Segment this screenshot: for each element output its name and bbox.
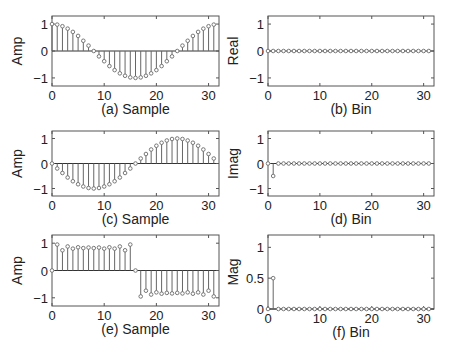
stem-marker: [165, 291, 169, 295]
stem-marker: [82, 39, 86, 43]
stem-marker: [391, 49, 395, 53]
stem-marker: [149, 293, 153, 297]
stem-marker: [212, 295, 216, 299]
stem-marker: [303, 162, 307, 166]
stem-marker: [92, 49, 96, 53]
stem-marker: [113, 68, 117, 72]
stem-marker: [354, 162, 358, 166]
stem-marker: [308, 49, 312, 53]
stem-marker: [155, 68, 159, 72]
x-tick-label: 30: [201, 198, 215, 213]
stem-marker: [87, 246, 91, 250]
stem-marker: [50, 22, 54, 26]
stem-marker: [266, 162, 270, 166]
y-axis-label: Real: [225, 37, 241, 66]
stem-marker: [287, 49, 291, 53]
stem-marker: [82, 246, 86, 250]
stem-marker: [277, 162, 281, 166]
y-tick-label: −1: [33, 182, 48, 197]
stem-marker: [328, 307, 332, 311]
stem-marker: [113, 247, 117, 251]
stem-marker: [134, 269, 138, 273]
y-tick-label: 1: [41, 236, 48, 251]
panel-a: 0102030−101Amp(a) Sample: [9, 16, 219, 117]
y-tick-label: −1: [33, 291, 48, 306]
stem-marker: [66, 176, 70, 180]
stem-marker: [391, 162, 395, 166]
stem-marker: [170, 55, 174, 59]
stem-marker: [292, 307, 296, 311]
x-tick-label: 0: [48, 88, 55, 103]
y-tick-label: 0: [41, 264, 48, 279]
panel-d: 0102030−101Imag(d) Bin: [225, 131, 434, 227]
stem-marker: [181, 292, 185, 296]
stem-marker: [128, 76, 132, 80]
stem-marker: [422, 49, 426, 53]
stem-marker: [55, 23, 59, 27]
stem-marker: [66, 245, 70, 249]
stem-marker: [370, 49, 374, 53]
stem-marker: [365, 49, 369, 53]
y-axis-label: Mag: [225, 258, 241, 285]
stem-marker: [360, 162, 364, 166]
stem-marker: [323, 162, 327, 166]
y-tick-label: −1: [249, 182, 264, 197]
y-tick-label: 0: [257, 44, 264, 59]
stem-marker: [102, 247, 106, 251]
y-tick-label: −1: [33, 71, 48, 86]
stem-marker: [401, 162, 405, 166]
stem-marker: [175, 137, 179, 141]
stem-marker: [139, 295, 143, 299]
stem-marker: [128, 167, 132, 171]
stem-marker: [139, 157, 143, 161]
stem-marker: [427, 49, 431, 53]
x-tick-label: 30: [201, 88, 215, 103]
stem-marker: [202, 27, 206, 31]
stem-marker: [287, 162, 291, 166]
stem-marker: [396, 49, 400, 53]
stem-marker: [113, 179, 117, 183]
stem-marker: [282, 162, 286, 166]
stem-marker: [144, 289, 148, 293]
stem-marker: [396, 307, 400, 311]
stem-marker: [349, 49, 353, 53]
stem-marker: [92, 187, 96, 191]
stem-marker: [128, 243, 132, 247]
stem-marker: [196, 144, 200, 148]
stem-marker: [71, 30, 75, 34]
stem-marker: [271, 49, 275, 53]
stem-marker: [186, 39, 190, 43]
stem-marker: [313, 162, 317, 166]
stem-marker: [82, 185, 86, 189]
stem-marker: [155, 291, 159, 295]
stem-marker: [328, 162, 332, 166]
y-tick-label: 0.5: [246, 271, 264, 286]
stem-marker: [134, 162, 138, 166]
y-axis-label: Amp: [9, 36, 25, 65]
panel-f: 010203000.51Mag(f) Bin: [225, 235, 434, 340]
stem-marker: [422, 307, 426, 311]
stem-marker: [186, 139, 190, 143]
stem-marker: [97, 246, 101, 250]
stem-marker: [149, 148, 153, 152]
stem-marker: [92, 246, 96, 250]
stem-marker: [323, 49, 327, 53]
stem-marker: [207, 24, 211, 28]
panel-caption: (f) Bin: [332, 324, 369, 340]
stem-marker: [155, 144, 159, 148]
stem-marker: [303, 49, 307, 53]
stem-marker: [71, 247, 75, 251]
stem-marker: [165, 139, 169, 143]
stem-marker: [61, 24, 65, 28]
stem-marker: [365, 162, 369, 166]
x-tick-label: 30: [416, 198, 430, 213]
stem-marker: [375, 307, 379, 311]
stem-marker: [191, 141, 195, 145]
stem-marker: [191, 34, 195, 38]
stem-marker: [365, 307, 369, 311]
stem-marker: [380, 49, 384, 53]
stem-marker: [427, 162, 431, 166]
stem-marker: [87, 44, 91, 48]
y-axis-label: Imag: [225, 148, 241, 179]
stem-marker: [181, 137, 185, 141]
